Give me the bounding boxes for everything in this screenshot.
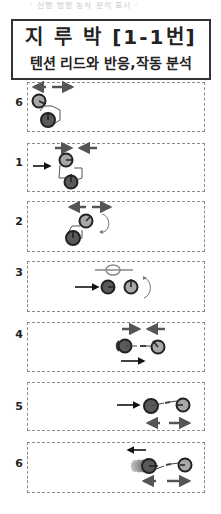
rotate-arrow-icon	[144, 278, 150, 298]
diagram-figures	[0, 0, 221, 514]
step-2-figure	[33, 148, 97, 189]
step-7-figure	[128, 450, 192, 481]
step-5-figure	[117, 329, 165, 361]
step-4-figure	[75, 265, 150, 298]
step-3-figure	[66, 207, 110, 245]
step-6-figure	[117, 399, 190, 424]
rotate-arrow-icon	[100, 214, 109, 232]
step-1-figure	[33, 87, 73, 127]
